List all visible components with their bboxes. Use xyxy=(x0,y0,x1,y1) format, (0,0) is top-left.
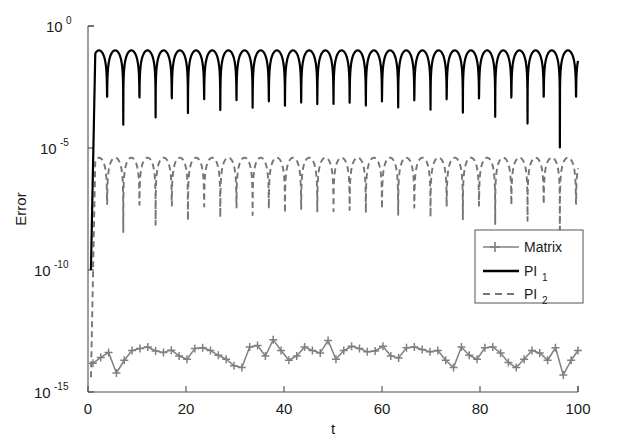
y-tick-exp-3: -15 xyxy=(54,381,69,392)
y-tick-label-0: 10 xyxy=(46,18,63,35)
x-tick-label-1: 20 xyxy=(178,400,195,417)
legend-sub-pi1: 1 xyxy=(542,272,548,283)
legend[interactable]: Matrix PI 1 PI 2 xyxy=(475,230,583,306)
x-tick-label-5: 100 xyxy=(565,400,590,417)
x-tick-label-3: 60 xyxy=(374,400,391,417)
error-vs-t-chart: 10 0 10 -5 10 -10 10 -15 0 20 40 60 80 1… xyxy=(0,0,628,440)
legend-label-pi2: PI xyxy=(524,286,537,302)
x-tick-label-4: 80 xyxy=(472,400,489,417)
legend-label-pi1: PI xyxy=(524,263,537,279)
legend-label-matrix: Matrix xyxy=(524,239,562,255)
y-tick-label-1: 10 xyxy=(40,140,57,157)
figure-container: 10 0 10 -5 10 -10 10 -15 0 20 40 60 80 1… xyxy=(0,0,628,440)
y-tick-exp-2: -10 xyxy=(54,259,69,270)
y-tick-label-2: 10 xyxy=(34,262,51,279)
y-tick-exp-0: 0 xyxy=(66,15,72,26)
y-tick-label-3: 10 xyxy=(34,384,51,401)
legend-sub-pi2: 2 xyxy=(542,295,548,306)
y-axis-title: Error xyxy=(12,192,29,225)
x-tick-label-2: 40 xyxy=(276,400,293,417)
y-tick-exp-1: -5 xyxy=(60,137,69,148)
x-tick-label-0: 0 xyxy=(84,400,92,417)
